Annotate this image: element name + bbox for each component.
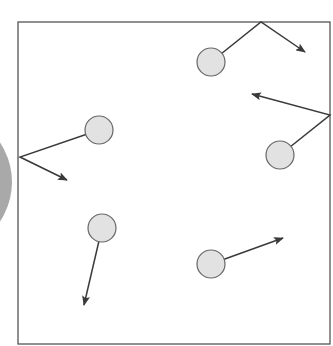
particles: [85, 48, 294, 278]
trajectory-arrow: [211, 22, 305, 62]
particle-collision-diagram: [0, 0, 333, 346]
container-box: [18, 22, 330, 344]
particle: [266, 141, 294, 169]
particle: [88, 214, 116, 242]
particle: [85, 116, 113, 144]
particle: [197, 250, 225, 278]
side-disc: [0, 98, 12, 266]
particle: [197, 48, 225, 76]
